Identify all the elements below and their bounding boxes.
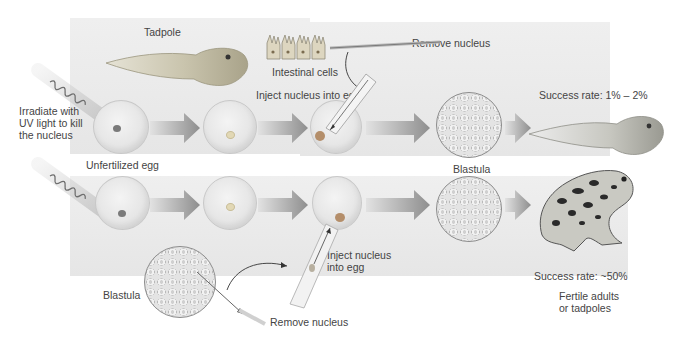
curved-arrow-icon <box>225 252 295 292</box>
blastula-top <box>436 92 502 158</box>
arrow-right-icon <box>505 190 531 220</box>
tadpole-donor-label: Tadpole <box>144 26 181 38</box>
arrow-right-icon <box>150 113 200 143</box>
egg-irradiated-top <box>93 100 149 154</box>
success-rate-bottom: Success rate: ~50% <box>534 270 628 282</box>
tadpole-result-illustration <box>527 112 667 162</box>
blastula-label-top: Blastula <box>453 163 490 175</box>
micropipette-inject-top <box>318 70 378 140</box>
arrow-right-icon <box>258 113 308 143</box>
arrow-right-icon <box>150 190 200 220</box>
fertile-adults-label: Fertile adults or tadpoles <box>559 290 625 314</box>
arrow-right-icon <box>366 190 430 220</box>
empty-nucleus <box>226 131 235 139</box>
egg-irradiated-bottom <box>95 176 150 230</box>
success-rate-top: Success rate: 1% – 2% <box>539 89 648 101</box>
micropipette-inject-bottom <box>286 218 346 308</box>
blastula-donor-label: Blastula <box>103 289 140 301</box>
egg-enucleated-bottom <box>203 176 257 230</box>
dead-nucleus <box>113 125 121 132</box>
tadpole-donor-illustration <box>104 45 254 95</box>
egg-enucleated-top <box>203 100 257 154</box>
frog-result-illustration <box>532 165 642 255</box>
arrow-right-icon <box>258 190 308 220</box>
remove-nucleus-label-bottom: Remove nucleus <box>270 316 348 328</box>
blastula-bottom <box>436 176 502 242</box>
empty-nucleus <box>226 203 235 211</box>
dead-nucleus <box>118 210 126 217</box>
